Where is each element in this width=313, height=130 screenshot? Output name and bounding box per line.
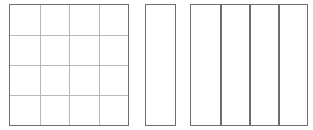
grid-line-horizontal bbox=[10, 35, 128, 36]
strip-divider bbox=[249, 5, 251, 125]
strip-divider bbox=[278, 5, 280, 125]
grid-square-4x4 bbox=[9, 4, 129, 126]
strip-divider bbox=[220, 5, 222, 125]
square-four-strips bbox=[190, 4, 308, 126]
grid-line-horizontal bbox=[10, 95, 128, 96]
single-vertical-strip bbox=[145, 4, 176, 126]
grid-line-horizontal bbox=[10, 65, 128, 66]
